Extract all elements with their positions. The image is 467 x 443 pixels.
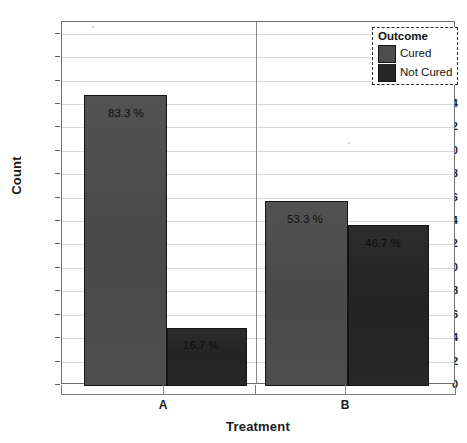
group-divider xyxy=(256,22,257,383)
x-axis-label-a: A xyxy=(143,398,183,412)
bar-a-not-cured[interactable] xyxy=(167,328,247,386)
bar-b-cured[interactable] xyxy=(265,201,348,386)
scan-speck xyxy=(348,142,350,144)
y-tick-mark xyxy=(55,314,60,315)
bar-label-a-cured: 83.3 % xyxy=(108,108,144,120)
bar-label-a-not-cured: 16.7 % xyxy=(183,340,219,352)
y-tick-mark xyxy=(55,267,60,268)
y-tick-mark xyxy=(55,126,60,127)
y-tick-mark xyxy=(55,337,60,338)
legend-items: Cured Not Cured xyxy=(378,44,453,82)
y-tick-mark xyxy=(55,361,60,362)
y-tick-mark xyxy=(55,33,60,34)
legend-item-not-cured[interactable]: Not Cured xyxy=(378,63,453,82)
y-axis-title: Count xyxy=(9,136,24,216)
x-axis-right-stub xyxy=(455,385,456,395)
x-tick-b xyxy=(345,385,346,394)
y-tick-mark xyxy=(55,103,60,104)
x-axis-mid-stub xyxy=(255,385,256,395)
legend[interactable]: Outcome Cured Not Cured xyxy=(372,27,458,85)
x-axis-label-b: B xyxy=(325,398,365,412)
y-tick-mark xyxy=(55,290,60,291)
y-tick-mark xyxy=(55,243,60,244)
y-tick-mark xyxy=(55,220,60,221)
x-tick-a xyxy=(163,385,164,394)
y-tick-mark xyxy=(55,80,60,81)
legend-title: Outcome xyxy=(378,30,453,43)
x-axis-line xyxy=(61,394,455,395)
legend-swatch-not-cured-icon xyxy=(378,64,396,82)
x-axis-left-stub xyxy=(61,385,62,395)
legend-label-not-cured: Not Cured xyxy=(400,67,452,79)
y-tick-mark xyxy=(55,384,60,385)
bar-chart: Count 024681012141618202224262830 83.3 %… xyxy=(0,0,467,443)
y-tick-mark xyxy=(55,173,60,174)
y-tick-mark xyxy=(55,197,60,198)
legend-item-cured[interactable]: Cured xyxy=(378,44,453,63)
y-tick-mark xyxy=(55,56,60,57)
legend-swatch-cured-icon xyxy=(378,45,396,63)
legend-label-cured: Cured xyxy=(400,48,431,60)
bar-a-cured[interactable] xyxy=(84,95,167,386)
y-tick-mark xyxy=(55,150,60,151)
bar-label-b-cured: 53.3 % xyxy=(287,214,323,226)
bar-label-b-not-cured: 46.7 % xyxy=(365,238,401,250)
scan-speck xyxy=(92,26,94,28)
x-axis-title: Treatment xyxy=(61,419,455,434)
